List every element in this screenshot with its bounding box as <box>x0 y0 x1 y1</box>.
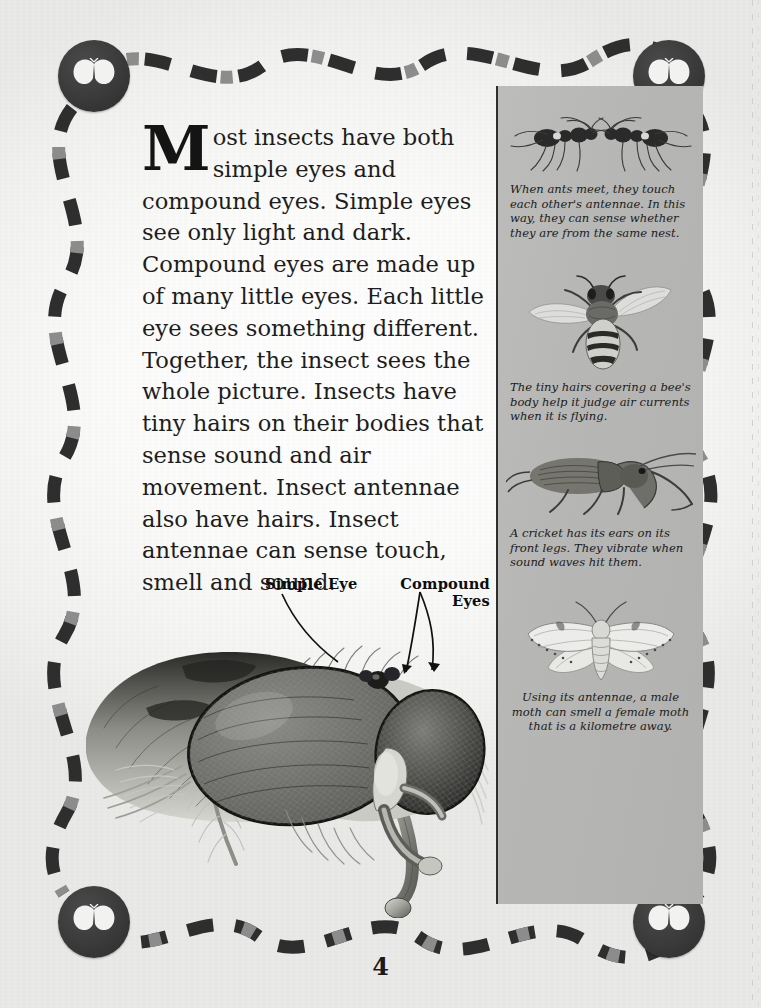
butterfly-icon <box>72 58 116 94</box>
sidebar-panel-bee: The tiny hairs covering a bee's body hel… <box>498 268 703 424</box>
bee-illustration <box>498 268 703 372</box>
cricket-illustration <box>498 442 703 518</box>
article-body: Most insects have both simple eyes and c… <box>142 122 494 599</box>
sidebar-caption-moth: Using its antennae, a male moth can smel… <box>498 690 703 734</box>
ants-illustration <box>498 100 703 174</box>
corner-medallion-top-left <box>58 40 130 112</box>
sidebar-panel-moth: Using its antennae, a male moth can smel… <box>498 600 703 734</box>
article-text: ost insects have both simple eyes and co… <box>142 124 484 595</box>
page-number: 4 <box>0 952 761 981</box>
sidebar-panel-ants: When ants meet, they touch each other's … <box>498 100 703 240</box>
moth-illustration <box>498 600 703 682</box>
scan-fold-line-secondary <box>758 0 759 1008</box>
butterfly-icon <box>647 904 691 940</box>
drop-cap: M <box>142 124 211 174</box>
border-top <box>100 44 668 77</box>
sidebar-caption-cricket: A cricket has its ears on its front legs… <box>498 526 703 570</box>
sidebar-caption-bee: The tiny hairs covering a bee's body hel… <box>498 380 703 424</box>
fly-head-illustration <box>86 588 516 918</box>
border-left <box>52 108 77 894</box>
sidebar-caption-ants: When ants meet, they touch each other's … <box>498 182 703 240</box>
book-page: Most insects have both simple eyes and c… <box>0 0 761 1008</box>
sidebar-panel-cricket: A cricket has its ears on its front legs… <box>498 442 703 570</box>
scan-fold-line <box>752 0 753 1008</box>
sidebar-panel: When ants meet, they touch each other's … <box>498 86 703 904</box>
